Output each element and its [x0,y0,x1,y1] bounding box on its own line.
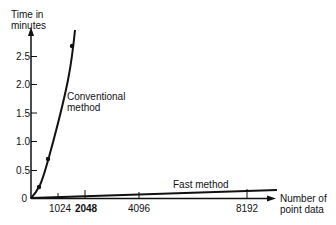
y-tick-label: 2.0 [16,79,30,90]
conventional-data-point [46,157,50,161]
fast-method-line [31,190,277,198]
conventional-method-label-line2: method [67,102,100,113]
y-tick-label: 1.0 [16,136,30,147]
y-axis-title-line2: minutes [11,20,46,31]
x-axis-title-line2: point data [280,204,324,215]
conventional-method-label-line1: Conventional [67,91,125,102]
x-tick-label: 1024 [49,203,72,214]
conventional-data-point [37,185,41,189]
x-tick-label: 4096 [128,203,151,214]
x-axis-title-line1: Number of [280,193,327,204]
y-tick-label: 2.5 [16,51,30,62]
y-tick-label: 1.5 [16,108,30,119]
x-tick-label: 2048 [75,203,98,214]
conventional-method-curve [31,30,75,198]
x-axis-arrow-icon [267,196,276,202]
fast-method-label: Fast method [173,179,229,190]
chart: 0 0.5 1.0 1.5 2.0 2.5 1024 2048 4096 819… [0,0,336,225]
conventional-data-point [70,44,74,48]
x-tick-label: 8192 [236,203,259,214]
y-axis-title-line1: Time in [11,9,43,20]
y-tick-label: 0.5 [16,165,30,176]
y-tick-label: 0 [21,193,27,204]
y-ticks [31,57,37,171]
